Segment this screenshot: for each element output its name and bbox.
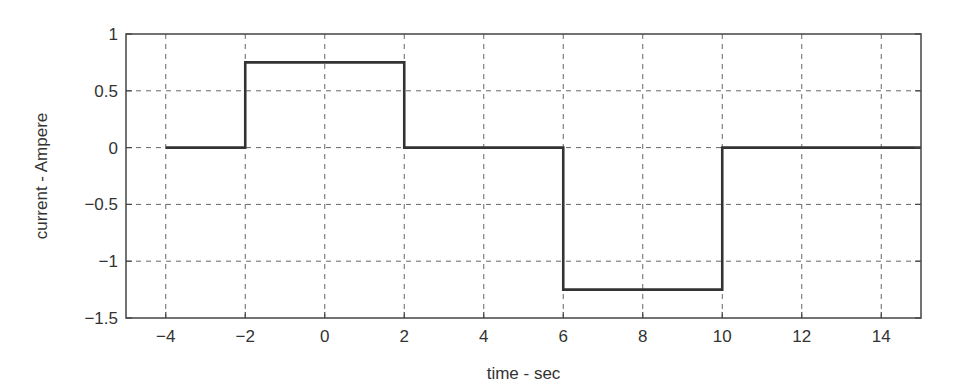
y-axis-ticks: 10.50−0.5−1−1.5 xyxy=(84,25,921,328)
x-tick-label: 14 xyxy=(872,327,891,346)
series-line xyxy=(166,62,921,289)
x-axis-ticks: −4−202468101214 xyxy=(156,312,891,346)
x-tick-label: −2 xyxy=(236,327,255,346)
x-axis-label: time - sec xyxy=(487,364,561,383)
x-tick-label: 8 xyxy=(638,327,647,346)
y-tick-label: 0 xyxy=(109,139,118,158)
x-tick-label: 10 xyxy=(713,327,732,346)
y-tick-label: 1 xyxy=(109,25,118,44)
y-tick-label: 0.5 xyxy=(94,82,118,101)
y-tick-label: −0.5 xyxy=(84,195,118,214)
y-tick-label: −1.5 xyxy=(84,309,118,328)
y-tick-label: −1 xyxy=(99,252,118,271)
x-tick-label: −4 xyxy=(156,327,175,346)
x-tick-label: 12 xyxy=(792,327,811,346)
x-tick-label: 4 xyxy=(479,327,488,346)
chart: −4−202468101214 10.50−0.5−1−1.5 time - s… xyxy=(0,0,965,391)
x-tick-label: 2 xyxy=(400,327,409,346)
x-tick-label: 6 xyxy=(559,327,568,346)
y-axis-label: current - Ampere xyxy=(32,113,51,240)
x-tick-label: 0 xyxy=(320,327,329,346)
series-current xyxy=(166,62,921,289)
